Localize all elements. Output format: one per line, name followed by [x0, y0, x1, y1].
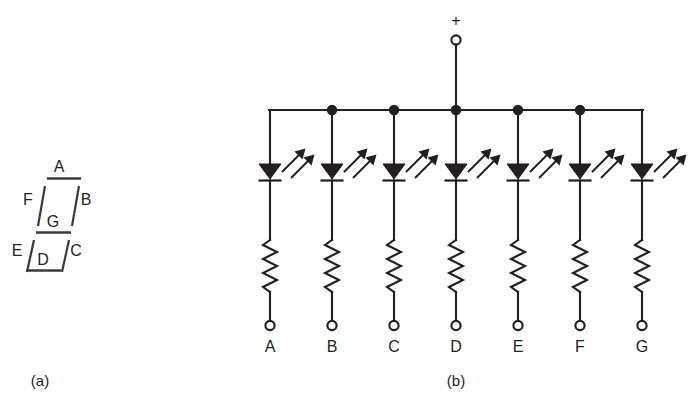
- branch-e: E: [507, 105, 563, 355]
- led-icon-g: [631, 164, 654, 181]
- resistor-icon-g: [635, 240, 649, 292]
- segment-f: F: [23, 186, 45, 226]
- output-label-a: A: [265, 338, 276, 355]
- led-emission-arrows-f: [592, 149, 625, 179]
- segment-c: C: [62, 240, 82, 272]
- output-label-c: C: [388, 338, 400, 355]
- segment-e-bar: [27, 240, 34, 272]
- figure-canvas: A F B G E: [0, 0, 697, 414]
- output-label-b: B: [327, 338, 338, 355]
- output-terminal-d: [451, 321, 460, 330]
- branch-b: B: [321, 105, 377, 355]
- output-label-d: D: [450, 338, 462, 355]
- led-icon-d: [445, 164, 468, 181]
- segment-e-label: E: [12, 242, 23, 259]
- segment-f-label: F: [23, 191, 33, 208]
- led-schematic: + A: [259, 12, 687, 355]
- led-icon-a: [259, 164, 282, 181]
- segment-e: E: [12, 240, 34, 272]
- segment-b-label: B: [81, 191, 92, 208]
- output-terminal-c: [389, 321, 398, 330]
- segment-c-bar: [62, 240, 69, 272]
- led-icon-b: [321, 164, 344, 181]
- segment-b-bar: [72, 186, 79, 226]
- resistor-icon-b: [325, 240, 339, 292]
- output-label-g: G: [636, 338, 648, 355]
- segment-a-label: A: [54, 158, 65, 175]
- output-label-f: F: [575, 338, 585, 355]
- segment-g: G: [36, 213, 71, 233]
- segment-a: A: [47, 158, 81, 179]
- led-emission-arrows-c: [406, 149, 439, 179]
- led-icon-f: [569, 164, 592, 181]
- led-icon-e: [507, 164, 530, 181]
- branch-d: D: [445, 105, 501, 355]
- led-emission-arrows-a: [282, 149, 315, 179]
- branch-a: A: [259, 110, 315, 355]
- led-icon-c: [383, 164, 406, 181]
- led-emission-arrows-g: [654, 149, 687, 179]
- branch-f: F: [569, 105, 625, 355]
- segment-b: B: [72, 186, 91, 226]
- resistor-icon-e: [511, 240, 525, 292]
- supply-polarity-label: +: [451, 12, 460, 29]
- led-emission-arrows-b: [344, 149, 377, 179]
- resistor-icon-f: [573, 240, 587, 292]
- output-terminal-b: [327, 321, 336, 330]
- branch-g: G: [631, 110, 687, 355]
- caption-b: (b): [447, 372, 465, 389]
- segment-f-bar: [38, 186, 45, 226]
- caption-a: (a): [31, 372, 49, 389]
- output-terminal-e: [513, 321, 522, 330]
- branch-c: C: [383, 105, 439, 355]
- output-terminal-a: [265, 321, 274, 330]
- supply-terminal-icon: [451, 35, 460, 44]
- resistor-icon-a: [263, 240, 277, 292]
- resistor-icon-d: [449, 240, 463, 292]
- segment-g-label: G: [47, 213, 59, 230]
- output-label-e: E: [513, 338, 524, 355]
- resistor-icon-c: [387, 240, 401, 292]
- output-terminal-f: [575, 321, 584, 330]
- segment-d-label: D: [37, 251, 49, 268]
- led-emission-arrows-d: [468, 149, 501, 179]
- led-emission-arrows-e: [530, 149, 563, 179]
- output-terminal-g: [637, 321, 646, 330]
- seven-segment-display: A F B G E: [12, 158, 92, 272]
- figure-root: A F B G E: [0, 0, 697, 414]
- segment-c-label: C: [70, 242, 82, 259]
